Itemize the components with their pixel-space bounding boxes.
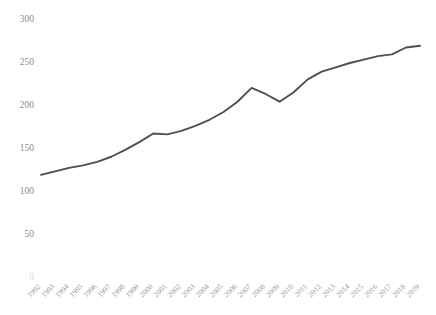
y-tick-label: 150 xyxy=(20,143,35,153)
chart-canvas: 050100150200250300 199219931994199519961… xyxy=(0,0,436,315)
x-tick-label: 2012 xyxy=(306,282,323,299)
y-tick-label: 0 xyxy=(29,272,34,282)
y-axis-tick-labels: 050100150200250300 xyxy=(20,14,35,282)
y-tick-label: 50 xyxy=(25,229,35,239)
x-tick-label: 1996 xyxy=(81,282,98,299)
x-tick-label: 2010 xyxy=(278,282,295,299)
line-chart: 050100150200250300 199219931994199519961… xyxy=(0,0,436,315)
x-tick-label: 2006 xyxy=(222,282,239,299)
x-tick-label: 2017 xyxy=(376,282,393,299)
x-tick-label: 2008 xyxy=(250,282,267,299)
x-tick-label: 1995 xyxy=(67,282,84,299)
x-tick-label: 2007 xyxy=(236,282,253,299)
x-tick-label: 1999 xyxy=(124,282,141,299)
x-axis-tick-labels: 1992199319941995199619971998199920002001… xyxy=(25,282,421,299)
x-tick-label: 2002 xyxy=(166,282,183,299)
x-tick-label: 1997 xyxy=(95,282,112,299)
x-tick-label: 2001 xyxy=(152,282,169,299)
y-tick-label: 200 xyxy=(20,100,35,110)
x-tick-label: 2013 xyxy=(320,282,337,299)
x-tick-label: 2009 xyxy=(264,282,281,299)
x-tick-label: 2018 xyxy=(390,282,407,299)
x-tick-label: 2005 xyxy=(208,282,225,299)
x-tick-label: 1994 xyxy=(53,282,70,299)
x-tick-label: 2015 xyxy=(348,282,365,299)
x-tick-label: 2000 xyxy=(138,282,155,299)
x-tick-label: 2016 xyxy=(362,282,379,299)
x-tick-label: 1993 xyxy=(39,282,56,299)
x-tick-label: 2011 xyxy=(292,282,309,299)
x-tick-label: 2003 xyxy=(180,282,197,299)
x-tick-label: 2004 xyxy=(194,282,211,299)
y-tick-label: 100 xyxy=(20,186,35,196)
x-tick-label: 1992 xyxy=(25,282,42,299)
x-tick-label: 2014 xyxy=(334,282,351,299)
data-series-line xyxy=(41,46,420,175)
x-tick-label: 2019 xyxy=(404,282,421,299)
y-tick-label: 300 xyxy=(20,14,35,24)
x-tick-label: 1998 xyxy=(110,282,127,299)
y-tick-label: 250 xyxy=(20,57,35,67)
